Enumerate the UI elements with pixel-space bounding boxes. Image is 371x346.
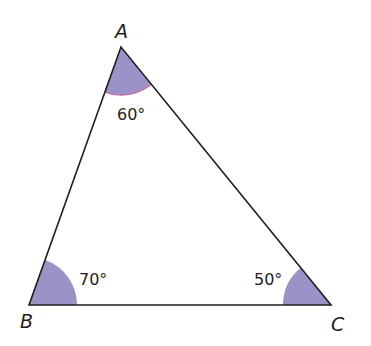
vertex-label-c: C xyxy=(331,313,345,335)
triangle-outline xyxy=(29,47,331,305)
angle-label-c: 50° xyxy=(254,270,282,289)
vertex-label-a: A xyxy=(113,20,128,42)
triangle-diagram: A B C 60° 70° 50° xyxy=(0,0,371,346)
vertex-label-b: B xyxy=(20,310,33,332)
angle-sector-c xyxy=(283,268,331,305)
angle-label-b: 70° xyxy=(79,270,107,289)
angle-label-a: 60° xyxy=(117,105,145,124)
